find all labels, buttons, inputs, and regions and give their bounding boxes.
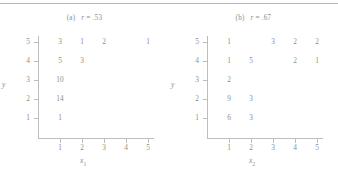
cell-count-x1-y3: 10 xyxy=(53,76,67,84)
cell-count-x1-y1: 1 xyxy=(53,114,67,122)
panel-b-y-label-1: 1 xyxy=(187,114,199,122)
panel-a-x-axis-line xyxy=(38,138,154,139)
panel-a-y-tick-1 xyxy=(34,118,39,119)
panel-b-stat-label: r xyxy=(251,14,254,22)
cell-count-x1-y2: 9 xyxy=(222,95,236,103)
panel-b-x-axis-title-sub: 2 xyxy=(252,161,255,167)
panel-b-y-tick-3 xyxy=(203,80,208,81)
panel-a-y-label-4: 4 xyxy=(18,57,30,65)
panel-b-x-label-1: 1 xyxy=(223,144,235,152)
cell-count-x5-y5: 1 xyxy=(141,38,155,46)
panel-a-x-axis-title: x1 xyxy=(80,156,86,167)
cell-count-x1-y3: 2 xyxy=(222,76,236,84)
panel-b-y-label-2: 2 xyxy=(187,95,199,103)
cell-count-x2-y1: 3 xyxy=(244,114,258,122)
cell-count-x3-y5: 3 xyxy=(266,38,280,46)
panel-a-y-label-3: 3 xyxy=(18,76,30,84)
cell-count-x1-y2: 14 xyxy=(53,95,67,103)
panel-b-stat-value: = .67 xyxy=(256,14,272,22)
panel-b-y-axis-title: y xyxy=(171,80,174,89)
panel-b-y-label-5: 5 xyxy=(187,38,199,46)
panel-b-tag: (b) xyxy=(236,14,245,22)
panel-a-x-label-4: 4 xyxy=(120,144,132,152)
panel-a-x-label-1: 1 xyxy=(54,144,66,152)
panel-b-y-tick-2 xyxy=(203,99,208,100)
panel-a-tag: (a) xyxy=(67,14,76,22)
cell-count-x1-y4: 5 xyxy=(53,57,67,65)
panel-b-y-label-4: 4 xyxy=(187,57,199,65)
panel-b-x-label-5: 5 xyxy=(311,144,323,152)
panel-a-y-tick-3 xyxy=(34,80,39,81)
panel-a-y-axis-title: y xyxy=(2,80,5,89)
panel-b-x-label-3: 3 xyxy=(267,144,279,152)
panel-b-x-axis-line xyxy=(207,138,323,139)
cell-count-x2-y4: 3 xyxy=(75,57,89,65)
panel-a-x-label-5: 5 xyxy=(142,144,154,152)
panel-a-y-tick-5 xyxy=(34,42,39,43)
cell-count-x4-y4: 2 xyxy=(288,57,302,65)
cell-count-x1-y4: 1 xyxy=(222,57,236,65)
panel-b: (b)r = .67 y x2 5 4 3 2 1 xyxy=(169,0,338,187)
cell-count-x1-y5: 3 xyxy=(53,38,67,46)
panel-a-plot-area: y x1 5 4 3 2 1 xyxy=(38,36,158,148)
panel-b-plot-area: y x2 5 4 3 2 1 xyxy=(207,36,327,148)
cell-count-x2-y4: 5 xyxy=(244,57,258,65)
panel-a-y-label-5: 5 xyxy=(18,38,30,46)
cell-count-x5-y5: 2 xyxy=(310,38,324,46)
figure-container: (a)r = .53 y x1 5 4 3 2 1 xyxy=(0,0,338,187)
panel-a-y-tick-4 xyxy=(34,61,39,62)
panel-a-x-axis-title-sub: 1 xyxy=(83,161,86,167)
panel-b-y-label-3: 3 xyxy=(187,76,199,84)
panel-a-x-label-3: 3 xyxy=(98,144,110,152)
cell-count-x2-y5: 1 xyxy=(75,38,89,46)
panel-a: (a)r = .53 y x1 5 4 3 2 1 xyxy=(0,0,169,187)
panel-b-y-tick-1 xyxy=(203,118,208,119)
cell-count-x1-y1: 6 xyxy=(222,114,236,122)
panel-b-y-tick-4 xyxy=(203,61,208,62)
panel-b-x-axis-title: x2 xyxy=(249,156,255,167)
panel-a-stat-label: r xyxy=(81,14,84,22)
cell-count-x3-y5: 2 xyxy=(97,38,111,46)
cell-count-x1-y5: 1 xyxy=(222,38,236,46)
cell-count-x2-y2: 3 xyxy=(244,95,258,103)
panel-a-y-axis-line xyxy=(38,36,39,138)
panel-a-caption: (a)r = .53 xyxy=(0,14,169,22)
panel-a-y-label-1: 1 xyxy=(18,114,30,122)
panel-b-y-axis-line xyxy=(207,36,208,138)
cell-count-x5-y4: 1 xyxy=(310,57,324,65)
panel-b-x-label-4: 4 xyxy=(289,144,301,152)
panel-a-stat-value: = .53 xyxy=(86,14,102,22)
panel-b-y-tick-5 xyxy=(203,42,208,43)
panel-b-x-label-2: 2 xyxy=(245,144,257,152)
cell-count-x4-y5: 2 xyxy=(288,38,302,46)
panel-a-y-tick-2 xyxy=(34,99,39,100)
panel-b-caption: (b)r = .67 xyxy=(169,14,338,22)
panel-a-x-label-2: 2 xyxy=(76,144,88,152)
panel-a-y-label-2: 2 xyxy=(18,95,30,103)
